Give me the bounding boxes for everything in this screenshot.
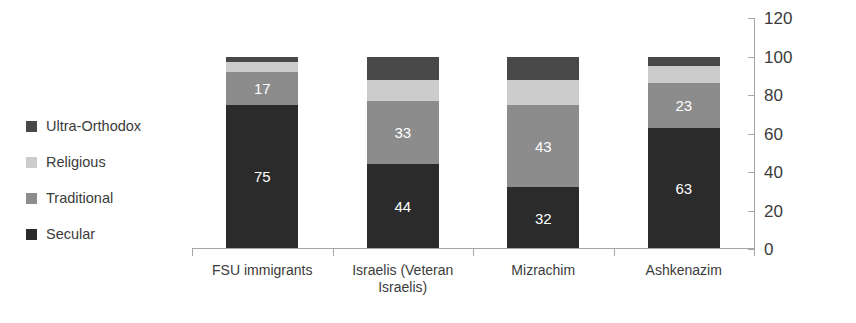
y-axis-tick: [748, 249, 755, 250]
legend-item-label: Ultra-Orthodox: [46, 119, 141, 134]
x-axis-category-label: FSU immigrants: [192, 262, 333, 279]
bar-segment-ultra-orthodox[interactable]: [226, 57, 298, 63]
bar-segment-traditional[interactable]: 17: [226, 72, 298, 105]
stacked-bar[interactable]: 6323: [648, 57, 720, 250]
legend-item-label: Traditional: [46, 191, 113, 206]
legend-swatch-religious-icon: [26, 157, 37, 168]
y-axis-label: 0: [764, 241, 773, 258]
bar-segment-value-label: 63: [675, 181, 692, 196]
bar-segment-value-label: 33: [394, 125, 411, 140]
y-axis-tick: [748, 57, 755, 58]
x-axis-category-label: Mizrachim: [473, 262, 614, 279]
x-axis-tick: [333, 249, 334, 256]
bar-segment-value-label: 75: [254, 169, 271, 184]
y-axis-label: 100: [764, 48, 792, 65]
bar-segment-ultra-orthodox[interactable]: [507, 57, 579, 80]
y-axis-tick: [748, 211, 755, 212]
chart-legend: Ultra-OrthodoxReligiousTraditionalSecula…: [26, 108, 186, 252]
bar-segment-religious[interactable]: [648, 66, 720, 83]
legend-item-religious[interactable]: Religious: [26, 144, 186, 180]
legend-item-traditional[interactable]: Traditional: [26, 180, 186, 216]
bar-segment-value-label: 17: [254, 81, 271, 96]
y-axis-label: 120: [764, 10, 792, 27]
y-axis-tick: [748, 95, 755, 96]
bar-slot: 4433: [333, 18, 474, 249]
y-axis-label: 20: [764, 202, 783, 219]
bar-segment-secular[interactable]: 32: [507, 187, 579, 249]
bar-segment-religious[interactable]: [507, 80, 579, 105]
bar-segment-traditional[interactable]: 23: [648, 83, 720, 127]
x-axis-category-label: Israelis (Veteran Israelis): [333, 262, 474, 296]
bar-slot: 3243: [473, 18, 614, 249]
legend-swatch-traditional-icon: [26, 193, 37, 204]
x-axis-tick: [754, 249, 755, 256]
bar-segment-ultra-orthodox[interactable]: [648, 57, 720, 67]
bar-segment-traditional[interactable]: 43: [507, 105, 579, 188]
y-axis-label: 60: [764, 125, 783, 142]
legend-item-ultra-orthodox[interactable]: Ultra-Orthodox: [26, 108, 186, 144]
y-axis-tick: [748, 172, 755, 173]
stacked-bar[interactable]: 3243: [507, 57, 579, 250]
x-axis-tick: [614, 249, 615, 256]
bar-segment-secular[interactable]: 44: [367, 164, 439, 249]
stacked-bar[interactable]: 7517: [226, 57, 298, 250]
legend-item-label: Secular: [46, 227, 95, 242]
x-axis-category-label: Ashkenazim: [614, 262, 755, 279]
bar-segment-religious[interactable]: [226, 62, 298, 72]
y-axis-label: 40: [764, 164, 783, 181]
x-axis-tick: [192, 249, 193, 256]
legend-swatch-secular-icon: [26, 229, 37, 240]
x-axis-tick: [473, 249, 474, 256]
bar-segment-secular[interactable]: 63: [648, 128, 720, 249]
bar-segment-value-label: 32: [535, 211, 552, 226]
y-axis-label: 80: [764, 87, 783, 104]
legend-item-secular[interactable]: Secular: [26, 216, 186, 252]
bar-segment-value-label: 23: [675, 98, 692, 113]
plot-area: 7517443332436323: [192, 18, 754, 249]
y-axis-tick: [748, 134, 755, 135]
bar-segment-value-label: 44: [394, 199, 411, 214]
legend-item-label: Religious: [46, 155, 106, 170]
bar-slot: 7517: [192, 18, 333, 249]
y-axis-tick: [748, 18, 755, 19]
bar-segment-value-label: 43: [535, 139, 552, 154]
legend-swatch-ultra-orthodox-icon: [26, 121, 37, 132]
bar-segment-ultra-orthodox[interactable]: [367, 57, 439, 80]
stacked-bar[interactable]: 4433: [367, 57, 439, 250]
bar-segment-religious[interactable]: [367, 80, 439, 101]
bar-slot: 6323: [614, 18, 755, 249]
stacked-bar-chart: Ultra-OrthodoxReligiousTraditionalSecula…: [0, 0, 856, 323]
bar-segment-secular[interactable]: 75: [226, 105, 298, 249]
bar-segment-traditional[interactable]: 33: [367, 101, 439, 165]
